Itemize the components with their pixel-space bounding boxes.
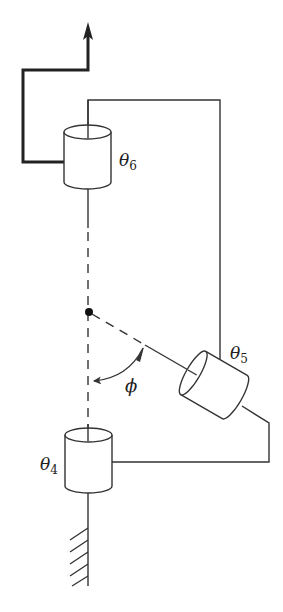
link-5-4: [112, 406, 269, 462]
joint-6-cylinder: [64, 100, 111, 189]
joint-5-label: θ5: [230, 343, 248, 366]
inclined-axis-dashed: [92, 314, 145, 345]
phi-arrow-start-icon: [136, 347, 144, 362]
joint-4-label: θ4: [40, 454, 58, 477]
joint-4-cylinder: [65, 424, 112, 493]
joint-6-label: θ6: [119, 150, 137, 173]
inclined-axis-solid: [145, 345, 190, 371]
wrist-diagram: θ6 θ5 ϕ θ4: [0, 0, 283, 612]
wrist-center-dot: [85, 308, 93, 316]
phi-label: ϕ: [125, 375, 137, 396]
ground-hatching-icon: [70, 528, 88, 586]
